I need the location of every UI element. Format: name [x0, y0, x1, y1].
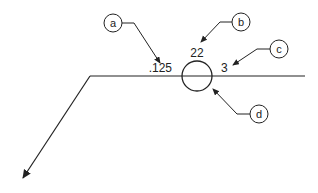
weld-symbol-diagram: .125 22 3 a b c d: [0, 0, 318, 193]
callout-d-label: d: [256, 108, 262, 120]
callout-d-leader: [213, 89, 250, 114]
callout-a-label: a: [110, 17, 117, 29]
callout-c-label: c: [276, 43, 282, 55]
value-right: 3: [221, 61, 228, 75]
value-left: .125: [149, 61, 173, 75]
diagram-canvas: .125 22 3 a b c d: [0, 0, 318, 193]
arrow-leader: [23, 76, 90, 178]
callout-a-leader: [122, 23, 160, 63]
value-top: 22: [190, 46, 204, 60]
callout-c-leader: [233, 49, 270, 65]
callout-b-label: b: [238, 16, 244, 28]
callout-b-leader: [201, 22, 232, 42]
